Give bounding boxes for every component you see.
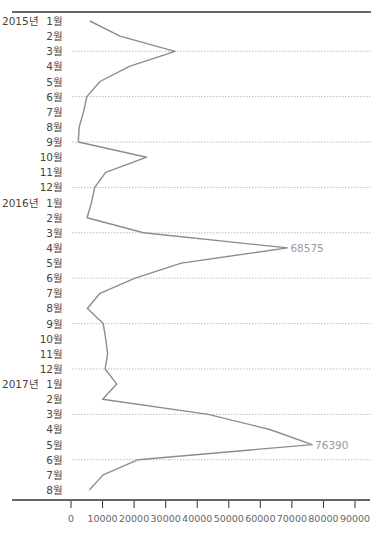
month-label: 9월 [46,318,63,330]
annotations: 6857576390 [290,242,348,451]
month-label: 9월 [46,136,63,148]
x-tick-label: 50000 [214,513,244,524]
month-label: 7월 [46,287,63,299]
peak-value-label: 76390 [315,439,348,451]
month-label: 5월 [46,439,63,451]
x-axis: 0100002000030000400005000060000700008000… [12,500,370,524]
month-label: 12월 [40,181,63,193]
month-label: 3월 [46,408,63,420]
month-label: 5월 [46,257,63,269]
series-line [78,21,312,490]
x-tick-label: 40000 [182,513,212,524]
month-label: 6월 [46,91,63,103]
month-label: 6월 [46,454,63,466]
month-label: 7월 [46,469,63,481]
x-tick-label: 0 [68,513,74,524]
month-label: 3월 [46,227,63,239]
data-series [78,21,312,490]
x-tick-label: 90000 [340,513,370,524]
month-label: 6월 [46,272,63,284]
y-axis-labels: 1월2월3월4월5월6월7월8월9월10월11월12월1월2월3월4월5월6월7… [2,15,63,496]
month-label: 10월 [40,151,63,163]
month-label: 2월 [46,30,63,42]
month-label: 2월 [46,393,63,405]
peak-value-label: 68575 [290,242,323,254]
x-tick-label: 80000 [308,513,338,524]
year-label: 2017년 [2,378,39,390]
x-tick-label: 10000 [87,513,117,524]
year-label: 2016년 [2,197,39,209]
month-label: 1월 [46,15,63,27]
line-chart: 1월2월3월4월5월6월7월8월9월10월11월12월1월2월3월4월5월6월7… [0,0,379,533]
month-label: 8월 [46,121,63,133]
x-tick-label: 20000 [119,513,149,524]
month-label: 1월 [46,378,63,390]
month-label: 1월 [46,197,63,209]
year-label: 2015년 [2,15,39,27]
month-label: 8월 [46,302,63,314]
month-label: 10월 [40,333,63,345]
grid-lines [72,51,372,459]
month-label: 11월 [40,166,63,178]
month-label: 2월 [46,212,63,224]
month-label: 5월 [46,76,63,88]
month-label: 4월 [46,423,63,435]
x-tick-label: 30000 [151,513,181,524]
month-label: 4월 [46,242,63,254]
x-tick-label: 70000 [277,513,307,524]
month-label: 7월 [46,106,63,118]
month-label: 3월 [46,45,63,57]
month-label: 12월 [40,363,63,375]
month-label: 8월 [46,484,63,496]
month-label: 4월 [46,60,63,72]
month-label: 11월 [40,348,63,360]
x-tick-label: 60000 [245,513,275,524]
